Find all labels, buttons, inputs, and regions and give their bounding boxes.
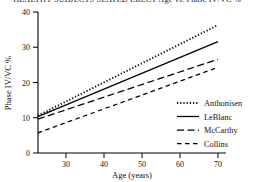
y-tick-label: 0 (26, 149, 30, 158)
series-line (38, 67, 218, 133)
y-tick-label: 30 (22, 43, 30, 52)
x-tick-label: 70 (214, 160, 222, 169)
y-axis-label: Phase IV/VC % (3, 56, 13, 110)
chart-svg: 010203040 3040506070 Age (years) Phase I… (0, 0, 254, 182)
series-line (38, 59, 218, 119)
x-tick-label: 30 (62, 160, 70, 169)
series-line (38, 25, 218, 116)
x-axis-label: Age (years) (112, 170, 152, 180)
legend-item-label: Collins (204, 140, 228, 149)
chart-root: HEALTHY SUBJECTS SEATED ERECT Age vs. Ph… (0, 0, 254, 182)
x-tick-label: 40 (100, 160, 108, 169)
legend-item-label: Anthonisen (204, 99, 243, 108)
y-tick-label: 40 (22, 8, 30, 17)
x-tick-label: 60 (176, 160, 184, 169)
chart-legend: AnthonisenLeBlancMcCarthyCollins (177, 99, 243, 149)
y-tick-label: 10 (22, 114, 30, 123)
x-axis-ticks: 3040506070 (62, 153, 222, 169)
y-axis-ticks: 010203040 (22, 8, 38, 158)
legend-item-label: McCarthy (204, 126, 238, 135)
plot-area: 010203040 3040506070 Age (years) Phase I… (0, 0, 254, 182)
series-line (38, 42, 218, 117)
y-tick-label: 20 (22, 79, 30, 88)
legend-item-label: LeBlanc (204, 113, 232, 122)
x-tick-label: 50 (138, 160, 146, 169)
